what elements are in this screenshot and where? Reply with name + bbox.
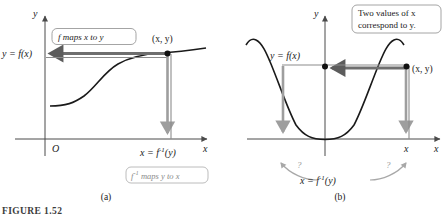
panel-a-function-label: y = f(x) <box>1 48 33 60</box>
svg-text:x = f-1(y): x = f-1(y) <box>299 174 337 187</box>
panel-b-inverse-prefix: x = f <box>299 175 320 186</box>
panel-b-callout-top: Two values of x correspond to y. <box>352 5 441 33</box>
panel-b-point-label: (x, y) <box>412 64 433 75</box>
panel-b-letter: (b) <box>334 192 345 203</box>
panel-a: y x O (x, y) y = f(x) x = f-1(y) <box>1 8 208 203</box>
panel-b: y x y = f(x) (x, y) x <box>246 5 441 203</box>
figure-root: y x O (x, y) y = f(x) x = f-1(y) <box>0 0 447 216</box>
panel-a-inverse-suffix: (y) <box>165 147 177 159</box>
panel-a-origin-label: O <box>52 143 59 154</box>
panel-b-y-axis-label: y <box>313 8 319 19</box>
panel-b-inverse-suffix: (y) <box>325 175 337 187</box>
figure-caption: FIGURE 1.52 <box>2 206 62 216</box>
panel-a-inverse-label: x = f-1(y) <box>139 146 177 159</box>
panel-a-point-label: (x, y) <box>152 34 173 45</box>
panel-b-callout-top-line2: correspond to y. <box>358 20 416 30</box>
panel-a-callout-bottom: f-1 maps y to x <box>126 167 208 183</box>
panel-a-y-axis-label: y <box>32 8 38 19</box>
panel-a-inverse-prefix: x = f <box>139 147 160 158</box>
panel-a-function-curve <box>50 48 206 106</box>
panel-a-callout-top-text: f maps x to y <box>58 32 104 42</box>
svg-text:x = f-1(y): x = f-1(y) <box>139 146 177 159</box>
panel-b-point-marker <box>404 64 410 70</box>
panel-a-x-axis-label: x <box>202 143 208 154</box>
panel-b-x-tick-label: x <box>403 143 409 154</box>
panel-b-question-mark-left: ? <box>297 160 302 170</box>
panel-b-point-marker-axis <box>322 64 328 70</box>
panel-a-point-marker <box>165 51 171 57</box>
panel-b-callout-top-line1: Two values of x <box>358 8 416 18</box>
panel-b-x-axis-label: x <box>433 143 439 154</box>
figure-svg: y x O (x, y) y = f(x) x = f-1(y) <box>0 0 447 216</box>
panel-a-letter: (a) <box>101 192 112 203</box>
panel-b-question-mark-right: ? <box>386 160 391 170</box>
svg-text:f-1 maps y to x: f-1 maps y to x <box>131 169 180 180</box>
panel-b-inverse-label: x = f-1(y) <box>299 174 337 187</box>
panel-a-callout-bottom-suffix: maps y to x <box>139 171 180 181</box>
panel-b-function-label: y = f(x) <box>269 50 301 62</box>
panel-a-callout-top: f maps x to y <box>52 29 136 45</box>
